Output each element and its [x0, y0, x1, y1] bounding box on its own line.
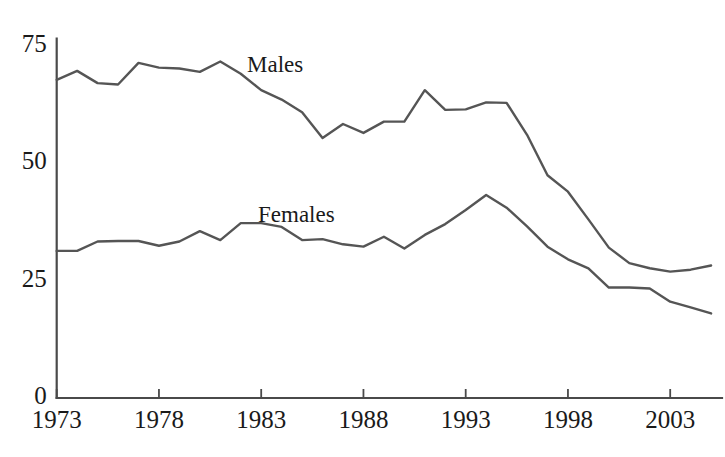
- y-tick-label-50: 50: [0, 147, 47, 175]
- series-line-males: [57, 61, 711, 271]
- x-tick-label-1998: 1998: [538, 406, 598, 434]
- series-label-females: Females: [258, 202, 335, 228]
- x-tick-label-1973: 1973: [27, 406, 87, 434]
- series-label-males: Males: [247, 52, 303, 78]
- y-tick-label-25: 25: [0, 265, 47, 293]
- axes-group: [57, 39, 722, 399]
- x-tick-label-1978: 1978: [129, 406, 189, 434]
- line-chart: 0255075 1973197819831988199319982003 Mal…: [0, 0, 725, 457]
- chart-plot-area: [0, 0, 725, 457]
- y-tick-label-75: 75: [0, 30, 47, 58]
- x-axis-ticks: [57, 389, 671, 398]
- x-tick-label-1988: 1988: [333, 406, 393, 434]
- series-line-females: [57, 195, 711, 313]
- x-tick-label-1983: 1983: [231, 406, 291, 434]
- data-series-group: [57, 61, 711, 313]
- x-tick-label-1993: 1993: [436, 406, 496, 434]
- x-tick-label-2003: 2003: [640, 406, 700, 434]
